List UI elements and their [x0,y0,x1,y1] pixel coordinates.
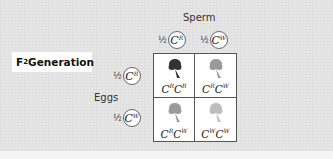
title-suffix: Generation [28,56,94,68]
sperm-label: Sperm [183,12,216,23]
punnett-grid: CRCR CRCW CRCW CWCW [153,53,237,142]
egg-allele-1: ½ CW [113,109,141,127]
flower-icon [167,102,183,124]
genotype-label: CRCW [195,82,236,95]
allele-letter: C [125,70,133,83]
flower-icon [208,102,224,124]
allele-superscript: R [179,34,184,41]
grid-cell: CRCR [154,54,195,98]
grid-cell: CRCW [154,98,195,142]
allele-superscript: W [220,34,226,41]
grid-cell: CWCW [195,98,236,142]
allele-superscript: R [134,70,139,77]
sperm-allele-1: ½ CW [200,31,228,49]
gamete-circle: CW [210,31,228,49]
title-prefix: F [16,56,23,68]
gamete-circle: CW [123,109,141,127]
genotype-label: CRCR [154,82,194,95]
punnett-square-diagram: F2 Generation Sperm Eggs ½ CR ½ CW ½ CR … [0,0,333,159]
allele-letter: C [211,34,219,47]
sperm-allele-0: ½ CR [158,31,186,49]
allele-superscript: W [133,112,139,119]
grid-cell: CRCW [195,54,236,98]
gamete-circle: CR [123,67,141,85]
egg-allele-0: ½ CR [113,67,141,85]
genotype-label: CRCW [154,127,194,140]
bottom-strip [0,151,333,159]
fraction: ½ [113,71,122,81]
fraction: ½ [113,113,122,123]
fraction: ½ [200,35,209,45]
gamete-circle: CR [168,31,186,49]
genotype-label: CWCW [195,127,236,140]
allele-letter: C [124,112,132,125]
fraction: ½ [158,35,167,45]
flower-icon [208,58,224,80]
allele-letter: C [170,34,178,47]
eggs-label: Eggs [94,92,118,103]
generation-title: F2 Generation [12,52,92,72]
flower-icon [167,58,183,80]
